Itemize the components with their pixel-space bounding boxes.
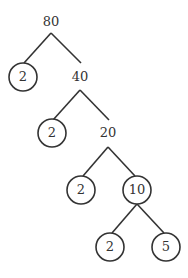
node-label-40: 40	[72, 69, 89, 84]
node-label-10: 10	[129, 182, 146, 197]
node-label-80: 80	[43, 14, 60, 29]
edge-40-2	[53, 90, 80, 120]
factor-tree-diagram: 80 40 2 20 2 10 2 2 5	[0, 0, 188, 278]
edge-80-40	[51, 33, 81, 63]
edge-80-2	[24, 33, 51, 63]
prime-label-2c: 2	[77, 182, 85, 197]
node-label-20: 20	[100, 125, 117, 140]
prime-label-2b: 2	[48, 125, 56, 140]
edge-10-2	[112, 204, 137, 233]
edge-10-5	[137, 204, 164, 233]
edge-20-10	[108, 147, 135, 176]
prime-label-2a: 2	[19, 69, 27, 84]
edge-40-20	[80, 90, 109, 120]
prime-label-2d: 2	[106, 239, 114, 254]
edge-20-2	[83, 147, 108, 176]
prime-label-5: 5	[162, 239, 170, 254]
